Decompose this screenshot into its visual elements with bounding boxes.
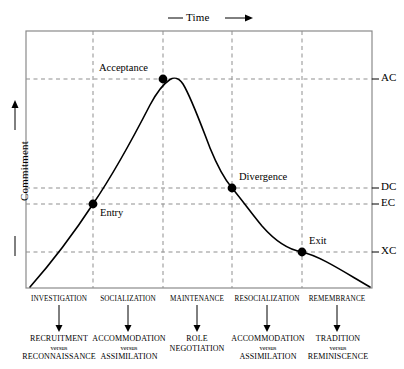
commitment-axis-label: Commitment — [18, 141, 30, 201]
descriptor-bottom-remembrance: REMINISCENCE — [295, 352, 381, 362]
stage-label-investigation: INVESTIGATION — [19, 295, 99, 303]
marker-acceptance — [159, 75, 168, 84]
stage-descriptor-arrows — [56, 311, 341, 332]
level-label-ac: AC — [381, 71, 396, 83]
annotation-label-divergence: Divergence — [239, 171, 287, 182]
marker-entry — [89, 200, 98, 209]
chart-canvas — [0, 0, 404, 369]
stage-label-remembrance: REMEMBRANCE — [297, 295, 377, 303]
level-label-dc: DC — [381, 180, 396, 192]
descriptor-mid-remembrance: versus — [295, 344, 381, 352]
descriptor-block-remembrance: TRADITION versus REMINISCENCE — [295, 334, 381, 362]
commitment-lifecycle-figure: Time Commitment AC DC EC XC Acceptance E… — [0, 0, 404, 369]
plot-frame — [26, 31, 372, 288]
level-label-xc: XC — [381, 244, 396, 256]
time-axis-label: Time — [186, 11, 210, 23]
stage-tick-marks — [59, 305, 337, 311]
descriptor-top-remembrance: TRADITION — [295, 334, 381, 344]
commitment-axis-label-wrapper: Commitment — [14, 116, 30, 226]
annotation-label-entry: Entry — [100, 207, 123, 218]
marker-divergence — [228, 184, 237, 193]
level-label-ec: EC — [381, 196, 395, 208]
time-axis-indicator — [168, 15, 253, 22]
annotation-label-exit: Exit — [309, 235, 327, 246]
stage-label-socialization: SOCIALIZATION — [88, 295, 168, 303]
marker-exit — [298, 248, 307, 257]
level-tick-marks — [372, 79, 379, 252]
annotation-label-acceptance: Acceptance — [99, 62, 148, 73]
